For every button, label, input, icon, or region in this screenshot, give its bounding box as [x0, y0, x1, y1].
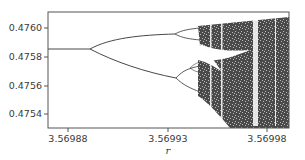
- x-tick-label: 3.56993: [148, 133, 187, 144]
- x-tick-label: 3.56998: [247, 133, 286, 144]
- y-tick-label: 0.4758: [9, 51, 42, 62]
- y-axis: 0.4760 0.4758 0.4756 0.4754: [9, 22, 48, 119]
- plot-data: [48, 14, 289, 128]
- x-tick-label: 3.56988: [48, 133, 87, 144]
- bifurcation-chart: 0.4760 0.4758 0.4756 0.4754 3.56988 3.56…: [0, 0, 305, 160]
- y-tick-label: 0.4756: [9, 80, 42, 91]
- x-axis: 3.56988 3.56993 3.56998 r: [48, 128, 286, 156]
- y-tick-label: 0.4754: [9, 108, 42, 119]
- x-axis-label: r: [166, 145, 172, 156]
- y-tick-label: 0.4760: [9, 22, 42, 33]
